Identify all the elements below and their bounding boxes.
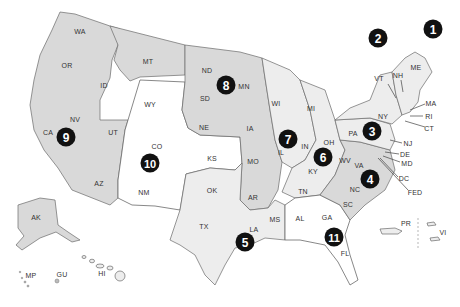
- state-label-tx: TX: [199, 223, 208, 230]
- circuit-marker-9: 9: [57, 128, 76, 147]
- state-label-mp: MP: [26, 272, 37, 279]
- state-label-nd: ND: [202, 67, 213, 74]
- region-second-circuit: [335, 72, 402, 124]
- state-label-vi: VI: [439, 229, 446, 236]
- state-label-id: ID: [100, 82, 107, 89]
- state-label-oh: OH: [324, 139, 335, 146]
- state-label-mi: MI: [307, 105, 315, 112]
- state-label-ar: AR: [248, 194, 258, 201]
- state-label-wy: WY: [144, 101, 156, 108]
- state-label-sc: SC: [343, 201, 353, 208]
- state-label-me: ME: [411, 64, 422, 71]
- region-alaska: [16, 198, 80, 250]
- state-label-mo: MO: [247, 158, 259, 165]
- region-montana: [110, 26, 185, 81]
- state-label-nj: NJ: [404, 140, 413, 147]
- state-label-ms: MS: [270, 216, 281, 223]
- state-label-ma: MA: [426, 100, 437, 107]
- state-label-sd: SD: [200, 95, 210, 102]
- state-label-dc: DC: [399, 175, 410, 182]
- state-label-ky: KY: [308, 168, 318, 175]
- circuit-marker-7: 7: [279, 130, 298, 149]
- state-label-nh: NH: [393, 72, 404, 79]
- state-label-pr: PR: [401, 220, 411, 227]
- state-label-va: VA: [354, 162, 363, 169]
- state-label-fl: FL: [341, 250, 350, 257]
- circuit-marker-8: 8: [217, 76, 236, 95]
- circuit-marker-4: 4: [361, 170, 380, 189]
- state-label-ne: NE: [199, 124, 209, 131]
- circuit-marker-2: 2: [369, 29, 388, 48]
- circuit-marker-11: 11: [325, 228, 344, 247]
- region-virgin-islands: [427, 222, 440, 241]
- state-label-mn: MN: [238, 83, 249, 90]
- state-label-gu: GU: [57, 271, 68, 278]
- state-label-ok: OK: [207, 187, 218, 194]
- state-label-co: CO: [152, 143, 163, 150]
- circuit-marker-5: 5: [236, 233, 255, 252]
- state-label-nv: NV: [70, 116, 80, 123]
- state-label-il: IL: [278, 149, 284, 156]
- state-label-al: AL: [296, 215, 305, 222]
- state-label-pa: PA: [348, 130, 357, 137]
- state-label-ga: GA: [322, 214, 333, 221]
- us-federal-circuits-map: [0, 0, 460, 307]
- state-label-wv: WV: [339, 157, 351, 164]
- state-label-md: MD: [401, 160, 412, 167]
- state-label-hi: HI: [98, 270, 105, 277]
- state-label-la: LA: [250, 226, 259, 233]
- state-label-wi: WI: [272, 100, 281, 107]
- state-label-in: IN: [301, 143, 308, 150]
- region-puerto-rico: [380, 228, 402, 234]
- state-label-ca: CA: [43, 129, 53, 136]
- state-label-nc: NC: [350, 186, 361, 193]
- circuit-marker-1: 1: [424, 20, 443, 39]
- region-hawaii: [82, 256, 125, 282]
- region-ninth-circuit: [30, 12, 128, 205]
- state-label-tn: TN: [298, 188, 308, 195]
- state-label-or: OR: [62, 62, 73, 69]
- state-label-ri: RI: [425, 113, 432, 120]
- circuit-marker-6: 6: [314, 148, 333, 167]
- circuit-marker-3: 3: [363, 122, 382, 141]
- state-label-ut: UT: [108, 129, 118, 136]
- state-label-wa: WA: [74, 28, 85, 35]
- state-label-mt: MT: [143, 58, 154, 65]
- state-label-ia: IA: [246, 125, 253, 132]
- circuit-marker-10: 10: [141, 154, 160, 173]
- state-label-ny: NY: [378, 113, 388, 120]
- state-label-nm: NM: [138, 189, 149, 196]
- state-label-ak: AK: [31, 214, 41, 221]
- state-label-az: AZ: [94, 180, 103, 187]
- state-label-vt: VT: [374, 75, 383, 82]
- state-label-ct: CT: [424, 125, 434, 132]
- state-label-de: DE: [400, 151, 410, 158]
- state-label-ks: KS: [207, 155, 217, 162]
- state-label-fed: FED: [408, 189, 423, 196]
